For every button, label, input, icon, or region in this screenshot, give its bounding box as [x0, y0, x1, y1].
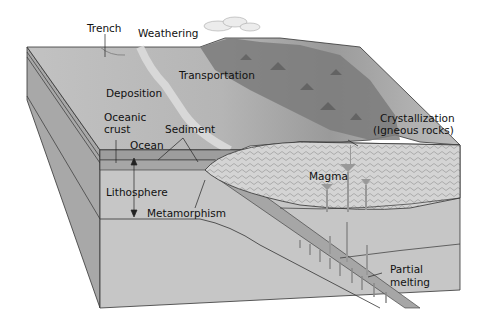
label-magma: Magma — [309, 170, 348, 182]
label-transportation: Transportation — [178, 69, 255, 81]
label-partial-melting-1: Partial — [390, 263, 423, 275]
label-weathering: Weathering — [138, 27, 198, 39]
label-deposition: Deposition — [106, 87, 162, 99]
label-sediment: Sediment — [165, 123, 215, 135]
label-crystallization-2: (Igneous rocks) — [373, 124, 454, 136]
label-oceanic-crust-2: crust — [104, 123, 130, 135]
rock-cycle-diagram: Trench Weathering Transportation Deposit… — [0, 0, 482, 326]
clouds — [204, 17, 260, 31]
label-crystallization-1: Crystallization — [380, 112, 455, 124]
label-trench: Trench — [86, 22, 122, 34]
label-partial-melting-2: melting — [390, 276, 430, 288]
label-metamorphism: Metamorphism — [147, 207, 226, 219]
label-oceanic-crust-1: Oceanic — [104, 111, 147, 123]
label-ocean: Ocean — [130, 139, 164, 151]
label-lithosphere: Lithosphere — [106, 186, 168, 198]
